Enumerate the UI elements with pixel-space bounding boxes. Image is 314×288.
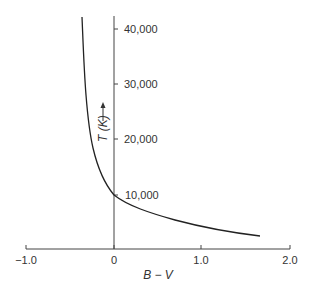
y-tick-label: 40,000 bbox=[124, 23, 158, 35]
y-tick-label: 10,000 bbox=[125, 189, 159, 201]
arrow-head-icon bbox=[101, 102, 106, 108]
chart: −1.0 0 1.0 2.0 B − V 10,000 20,000 30,00… bbox=[0, 0, 314, 288]
x-axis-label: B − V bbox=[143, 268, 174, 282]
y-tick-label: 30,000 bbox=[124, 78, 158, 90]
x-tick-label: 1.0 bbox=[193, 254, 208, 266]
y-tick-label: 20,000 bbox=[124, 133, 158, 145]
x-tick-label: 2.0 bbox=[282, 254, 297, 266]
x-tick-label: 0 bbox=[111, 254, 117, 266]
x-tick-label: −1.0 bbox=[15, 254, 37, 266]
